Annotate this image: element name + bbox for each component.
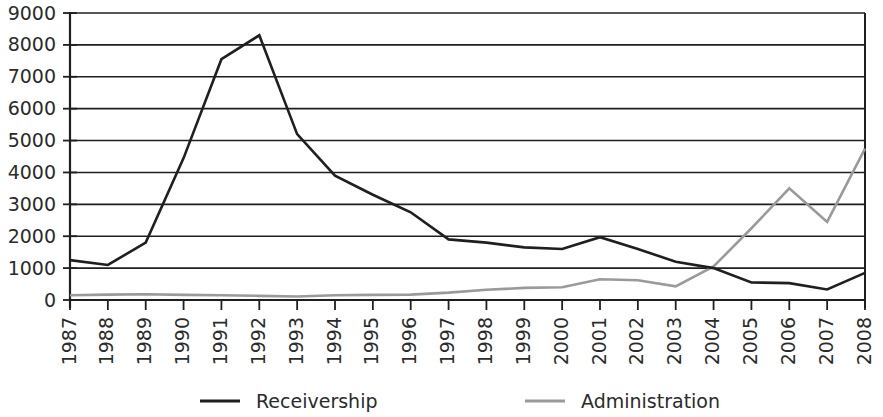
legend-item-administration: Administration <box>525 390 720 412</box>
x-axis-tick-marks <box>70 300 865 310</box>
legend-label-administration: Administration <box>581 390 720 412</box>
y-tick-label: 8000 <box>8 33 56 55</box>
x-tick-label-1997: 1997 <box>436 317 458 365</box>
x-tick-label-1994: 1994 <box>323 317 345 365</box>
y-tick-label: 7000 <box>8 65 56 87</box>
x-tick-label-2006: 2006 <box>777 317 799 365</box>
legend-label-receivership: Receivership <box>256 390 377 412</box>
gridlines <box>70 13 865 300</box>
x-tick-label-1992: 1992 <box>247 317 269 365</box>
chart-legend: ReceivershipAdministration <box>200 390 720 412</box>
x-tick-label-2002: 2002 <box>625 317 647 365</box>
y-tick-label: 4000 <box>8 161 56 183</box>
y-tick-label: 0 <box>44 289 56 311</box>
x-tick-label-1989: 1989 <box>133 317 155 365</box>
x-tick-label-1998: 1998 <box>474 317 496 365</box>
x-tick-label-2001: 2001 <box>588 317 610 365</box>
y-tick-label: 2000 <box>8 225 56 247</box>
series-lines <box>70 35 865 296</box>
x-tick-label-1987: 1987 <box>58 317 80 365</box>
x-tick-label-2000: 2000 <box>550 317 572 365</box>
x-tick-label-1988: 1988 <box>95 317 117 365</box>
x-tick-label-1990: 1990 <box>171 317 193 365</box>
series-line-receivership <box>70 35 865 289</box>
x-tick-label-2003: 2003 <box>663 317 685 365</box>
series-line-administration <box>70 149 865 297</box>
y-tick-label: 3000 <box>8 193 56 215</box>
y-axis-tick-labels: 9000800070006000500040003000200010000 <box>8 2 56 311</box>
y-tick-label: 9000 <box>8 2 56 24</box>
y-tick-label: 5000 <box>8 129 56 151</box>
x-tick-label-1999: 1999 <box>512 317 534 365</box>
chart-figure: 9000800070006000500040003000200010000 19… <box>0 0 883 417</box>
x-tick-label-2005: 2005 <box>739 317 761 365</box>
x-tick-label-1991: 1991 <box>209 317 231 365</box>
x-tick-label-2004: 2004 <box>701 317 723 365</box>
plot-frame <box>70 12 865 308</box>
x-tick-label-1995: 1995 <box>360 317 382 365</box>
legend-item-receivership: Receivership <box>200 390 377 412</box>
y-tick-label: 1000 <box>8 257 56 279</box>
x-tick-label-1993: 1993 <box>285 317 307 365</box>
x-axis-tick-labels: 1987198819891990199119921993199419951996… <box>58 317 875 365</box>
y-tick-label: 6000 <box>8 97 56 119</box>
line-chart: 9000800070006000500040003000200010000 19… <box>0 0 883 417</box>
x-tick-label-2008: 2008 <box>853 317 875 365</box>
x-tick-label-2007: 2007 <box>815 317 837 365</box>
x-tick-label-1996: 1996 <box>398 317 420 365</box>
